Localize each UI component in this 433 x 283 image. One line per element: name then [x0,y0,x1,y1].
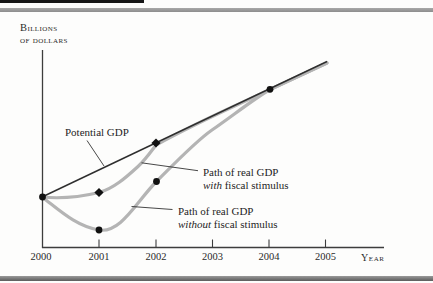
without-stimulus-italic-word: without [178,218,211,230]
figure-container: Billions of dollars [0,0,433,283]
marker-2004-circle [267,86,274,93]
without-stimulus-pointer [132,207,173,210]
x-tick-label-2002: 2002 [146,251,167,262]
potential-gdp-pointer [87,141,104,167]
x-tick-label-2003: 2003 [202,251,223,262]
without-stimulus-label: Path of real GDP without fiscal stimulus [178,205,278,230]
x-tick-label-2005: 2005 [315,251,336,262]
potential-gdp-label: Potential GDP [65,126,129,139]
marker-2002-without-circle [153,178,160,185]
without-stimulus-label-line2: without fiscal stimulus [178,218,278,231]
x-axis-label: Year [361,252,385,263]
with-stimulus-italic-word: with [203,179,222,191]
with-stimulus-label-rest: fiscal stimulus [222,179,289,191]
marker-2001-without-circle [96,227,103,234]
x-axis-ticks [99,240,326,248]
chart-canvas [0,0,433,283]
with-stimulus-label-line1: Path of real GDP [203,166,289,179]
with-stimulus-label: Path of real GDP with fiscal stimulus [203,166,289,191]
x-tick-label-2001: 2001 [89,251,110,262]
x-tick-label-2004: 2004 [259,251,280,262]
without-stimulus-label-rest: fiscal stimulus [211,218,278,230]
with-stimulus-label-line2: with fiscal stimulus [203,179,289,192]
without-stimulus-label-line1: Path of real GDP [178,205,278,218]
x-tick-label-2000: 2000 [31,251,52,262]
marker-2000-circle [39,194,46,201]
marker-2001-with-diamond [94,188,103,197]
marker-2002-with-diamond [151,139,160,148]
